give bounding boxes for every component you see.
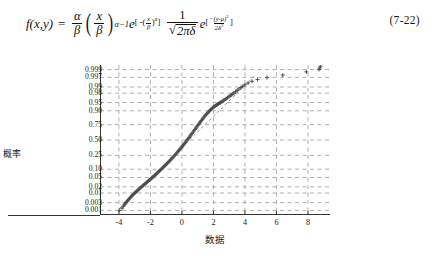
plot-area	[100, 65, 330, 215]
y-tick-label: 0.001	[85, 206, 102, 214]
alpha-symbol: α	[72, 10, 83, 23]
sqrt-term: √2πδ	[167, 22, 198, 38]
x-over-beta-small: xβ	[146, 16, 151, 31]
data-point-marker	[246, 81, 250, 85]
beta-symbol-small: β	[146, 23, 151, 31]
radicand: 2πδ	[176, 24, 196, 38]
right-paren: )	[108, 13, 113, 34]
equation-block: f(x,y) = α β ( x β ) α−1 e [ -(xβ)α] 1 √…	[0, 0, 436, 50]
x-tick-label: 6	[266, 218, 286, 227]
equation-number: (7-22)	[389, 14, 420, 26]
x-tick-label: 2	[203, 218, 223, 227]
normal-probability-plot: 概率 数据 0.9990.9970.990.980.950.900.750.50…	[0, 52, 436, 256]
x-tick-label: -4	[109, 218, 129, 227]
numerator-one: 1	[177, 9, 187, 22]
y-tick-label: 0.01	[89, 189, 102, 197]
data-point-marker	[118, 208, 122, 212]
gaussian-numerator: −(y-μ)2	[209, 15, 230, 23]
gaussian-denominator: 2δ2	[214, 23, 225, 32]
y-tick-label: 0.75	[89, 121, 102, 129]
x-tick-label: 8	[298, 218, 318, 227]
square-power: 2	[226, 14, 228, 19]
second-exponent-group: [−(y-μ)22δ2]	[205, 15, 232, 32]
radical-sign: √	[169, 23, 176, 38]
first-exponent-group: [ -(xβ)α]	[135, 16, 160, 31]
y-tick-label: 0.05	[89, 173, 102, 181]
equals-sign: =	[58, 16, 65, 32]
x-tick-label: -2	[140, 218, 160, 227]
function-label: f(x,y)	[26, 16, 53, 32]
data-point-marker	[256, 78, 260, 82]
square-power-2: 2	[221, 23, 223, 28]
exp2-close-bracket: ]	[230, 18, 233, 28]
y-tick-label: 0.997	[85, 73, 102, 81]
y-tick-label: 0.98	[89, 89, 102, 97]
equation-expression: f(x,y) = α β ( x β ) α−1 e [ -(xβ)α] 1 √…	[26, 9, 233, 38]
exp-close-bracket: ]	[157, 18, 160, 28]
x-axis-title: 数据	[100, 232, 330, 246]
left-paren: (	[86, 13, 91, 34]
x-tick-label: 4	[235, 218, 255, 227]
radical: √2πδ	[169, 23, 196, 38]
beta-symbol: β	[72, 23, 82, 37]
x-over-beta-fraction: x β	[94, 10, 104, 37]
y-tick-label: 0.50	[89, 136, 102, 144]
one-over-sqrt-fraction: 1 √2πδ	[167, 9, 198, 38]
x-tick-label: 0	[172, 218, 192, 227]
beta-symbol-2: β	[94, 23, 104, 37]
y-minus-mu: (y-μ)	[214, 15, 227, 22]
y-tick-label: 0.90	[89, 107, 102, 115]
alpha-over-beta-fraction: α β	[72, 10, 83, 37]
y-tick-label: 0.25	[89, 151, 102, 159]
y-tick-label: 0.95	[89, 99, 102, 107]
x-axis-extension	[8, 215, 100, 216]
gaussian-exponent-fraction: −(y-μ)22δ2	[209, 15, 230, 32]
x-symbol-small: x	[146, 16, 151, 23]
plot-canvas	[100, 65, 330, 215]
data-point-marker	[281, 73, 285, 77]
y-axis-title: 概率	[1, 149, 23, 159]
data-point-marker	[265, 76, 269, 80]
data-point-marker	[250, 79, 254, 83]
x-symbol: x	[94, 10, 104, 23]
exp-open-bracket: [ -(	[135, 18, 146, 28]
